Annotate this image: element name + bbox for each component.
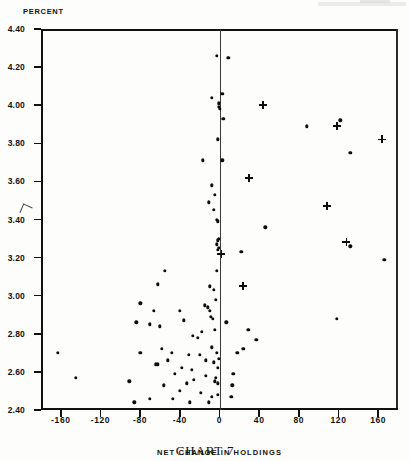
y-tick-label: 4.40 xyxy=(8,24,25,34)
y-tick-label: 3.00 xyxy=(8,291,25,301)
data-point-dot xyxy=(196,336,199,339)
y-tick xyxy=(34,66,41,68)
x-tick-label: 160 xyxy=(370,415,386,425)
data-point-dot xyxy=(178,309,181,312)
chart-figure: PERCENT 2.402.602.803.003.203.403.603.80… xyxy=(0,0,410,461)
data-point-plus xyxy=(378,135,386,143)
y-tick-label: 2.60 xyxy=(8,367,25,377)
data-point-dot xyxy=(187,353,190,356)
data-point-dot xyxy=(201,159,204,162)
data-point-plus xyxy=(259,101,267,109)
data-point-dot xyxy=(191,334,194,337)
data-point-dot xyxy=(212,288,215,291)
data-point-dot xyxy=(212,361,215,364)
data-point-dot xyxy=(254,338,257,341)
x-tick-label: 40 xyxy=(254,415,265,425)
y-tick xyxy=(34,295,41,297)
data-point-dot xyxy=(138,351,141,354)
data-point-dot xyxy=(171,397,174,400)
data-point-dot xyxy=(178,389,181,392)
data-point-plus xyxy=(245,174,253,182)
data-point-dot xyxy=(349,151,352,154)
y-tick xyxy=(34,333,41,335)
data-point-dot xyxy=(221,159,224,162)
data-point-dot xyxy=(210,345,213,348)
data-point-dot xyxy=(156,363,159,366)
data-point-dot xyxy=(215,269,218,272)
data-point-dot xyxy=(133,401,136,404)
data-point-dot xyxy=(156,283,159,286)
data-point-dot xyxy=(215,54,218,57)
data-point-dot xyxy=(227,56,230,59)
data-point-dot xyxy=(134,321,137,324)
y-tick xyxy=(34,143,41,145)
y-tick-label: 4.00 xyxy=(8,100,25,110)
data-point-dot xyxy=(162,384,165,387)
data-point-dot xyxy=(305,124,308,127)
data-point-dot xyxy=(138,302,141,305)
axis-frame-right xyxy=(396,29,398,410)
data-point-dot xyxy=(210,184,213,187)
data-point-dot xyxy=(230,395,233,398)
data-point-plus xyxy=(333,122,341,130)
data-point-dot xyxy=(188,401,191,404)
data-point-dot xyxy=(211,317,214,320)
data-point-dot xyxy=(200,330,203,333)
data-point-dot xyxy=(163,269,166,272)
y-tick-label: 3.80 xyxy=(8,138,25,148)
y-tick-label: 4.20 xyxy=(8,62,25,72)
data-point-dot xyxy=(335,317,338,320)
data-point-plus xyxy=(323,202,331,210)
data-point-plus xyxy=(239,282,247,290)
data-point-dot xyxy=(225,321,228,324)
data-point-dot xyxy=(263,225,266,228)
data-point-dot xyxy=(173,372,176,375)
data-point-dot xyxy=(215,351,218,354)
data-point-plus xyxy=(342,238,350,246)
x-tick-label: 0 xyxy=(217,415,222,425)
y-tick-label: 3.60 xyxy=(8,176,25,186)
data-point-dot xyxy=(160,347,163,350)
x-tick-label: 80 xyxy=(294,415,305,425)
x-tick-label: -80 xyxy=(133,415,147,425)
data-point-dot xyxy=(56,351,59,354)
data-point-dot xyxy=(247,328,250,331)
y-tick xyxy=(34,104,41,106)
y-tick-label: 2.80 xyxy=(8,329,25,339)
data-point-dot xyxy=(242,347,245,350)
data-point-dot xyxy=(210,395,213,398)
data-point-dot xyxy=(180,366,183,369)
data-point-dot xyxy=(221,92,224,95)
y-tick xyxy=(34,219,41,221)
data-point-dot xyxy=(213,193,216,196)
data-point-plus xyxy=(217,250,225,258)
data-point-dot xyxy=(214,298,217,301)
y-tick xyxy=(34,409,41,411)
data-point-dot xyxy=(204,359,207,362)
x-tick-label: -160 xyxy=(51,415,70,425)
chart-caption: CHART 7 xyxy=(0,443,410,459)
data-point-dot xyxy=(74,376,77,379)
data-point-dot xyxy=(166,359,169,362)
data-point-dot xyxy=(192,378,195,381)
data-point-dot xyxy=(236,351,239,354)
data-point-dot xyxy=(170,351,173,354)
data-point-dot xyxy=(128,380,131,383)
data-point-dot xyxy=(207,401,210,404)
data-point-dot xyxy=(185,382,188,385)
y-tick xyxy=(34,28,41,30)
x-tick-label: -40 xyxy=(173,415,187,425)
y-tick-label: 3.20 xyxy=(8,253,25,263)
data-point-dot xyxy=(210,96,213,99)
data-point-dot xyxy=(213,328,216,331)
y-tick-label: 3.40 xyxy=(8,215,25,225)
y-tick-label: 2.40 xyxy=(8,405,25,415)
x-tick-label: 120 xyxy=(331,415,347,425)
data-point-dot xyxy=(208,284,211,287)
zero-reference-line xyxy=(220,29,221,410)
data-point-dot xyxy=(148,323,151,326)
axis-frame-left xyxy=(41,29,43,410)
plot-area: 2.402.602.803.003.203.403.603.804.004.20… xyxy=(41,29,398,410)
data-point-dot xyxy=(207,201,210,204)
y-axis-unit-label: PERCENT xyxy=(23,7,64,16)
